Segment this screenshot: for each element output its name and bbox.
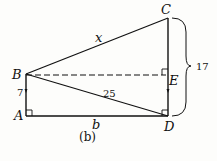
edge-label-25: 25 bbox=[103, 88, 116, 99]
vertex-label-C: C bbox=[161, 2, 171, 17]
vertex-label-E: E bbox=[168, 73, 179, 88]
edge-BD bbox=[26, 74, 168, 116]
right-angle-marker-A bbox=[26, 110, 32, 116]
right-angle-marker-E bbox=[162, 69, 168, 75]
vertex-label-A: A bbox=[13, 108, 23, 123]
edge-label-7: 7 bbox=[17, 87, 23, 98]
edge-BC bbox=[26, 18, 168, 74]
arrow-mark-AB bbox=[25, 89, 28, 93]
edge-label-x: x bbox=[95, 30, 103, 45]
brace-CD bbox=[172, 18, 191, 116]
brace-label-17: 17 bbox=[196, 61, 209, 72]
arrow-mark-ED bbox=[167, 89, 170, 93]
vertex-label-D: D bbox=[163, 119, 175, 134]
vertex-label-B: B bbox=[11, 67, 22, 82]
geometry-diagram: C B E A D x 25 7 b 17 (b) bbox=[0, 0, 217, 161]
diagram-canvas: C B E A D x 25 7 b 17 (b) bbox=[0, 0, 217, 161]
figure-caption: (b) bbox=[79, 130, 96, 144]
